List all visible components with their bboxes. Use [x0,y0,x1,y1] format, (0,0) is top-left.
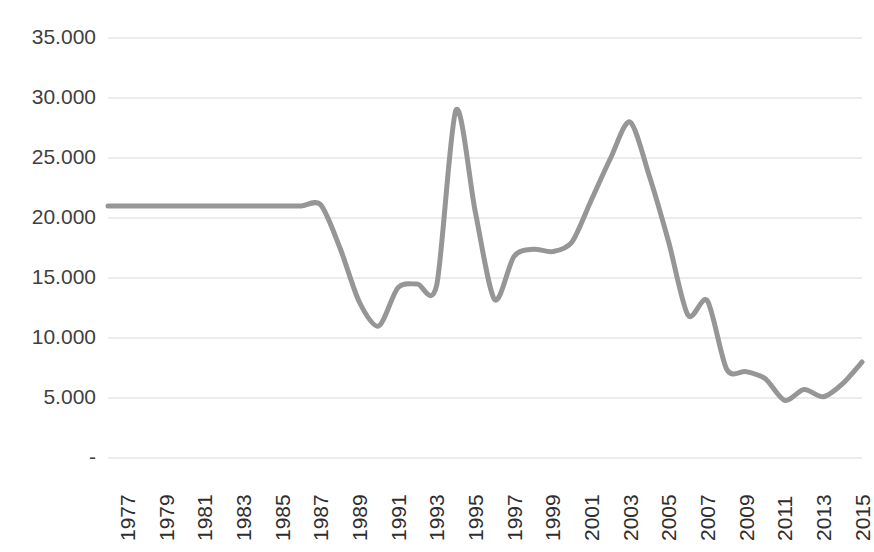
x-axis: 1977197919811983198519871989199119931995… [0,0,874,552]
x-tick-label: 1999 [541,494,565,541]
x-tick-label: 2007 [696,494,720,541]
x-tick-label: 2001 [580,494,604,541]
x-tick-label: 1981 [193,494,217,541]
x-tick-label: 1991 [387,494,411,541]
x-tick-label: 2015 [851,494,874,541]
line-chart: -5.00010.00015.00020.00025.00030.00035.0… [0,0,874,552]
x-tick-label: 1993 [425,494,449,541]
x-tick-label: 2011 [773,496,797,541]
x-tick-label: 1987 [309,494,333,541]
x-tick-label: 2009 [735,494,759,541]
x-tick-label: 2013 [812,494,836,541]
x-tick-label: 1995 [464,494,488,541]
x-tick-label: 1983 [232,494,256,541]
x-tick-label: 1977 [116,494,140,541]
x-tick-label: 2003 [619,494,643,541]
x-tick-label: 1997 [503,494,527,541]
x-tick-label: 1985 [271,494,295,541]
x-tick-label: 2005 [657,494,681,541]
x-tick-label: 1979 [155,494,179,541]
x-tick-label: 1989 [348,494,372,541]
